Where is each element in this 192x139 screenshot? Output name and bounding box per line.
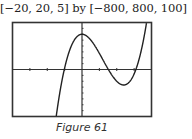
figure-caption: Figure 61	[0, 121, 164, 134]
axes	[13, 23, 152, 117]
graph-screen	[0, 0, 192, 139]
